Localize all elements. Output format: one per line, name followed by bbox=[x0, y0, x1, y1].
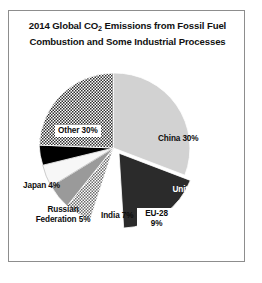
slice-label-russian-federation-line2: Federation 5% bbox=[36, 215, 91, 224]
slice-label-russian-federation: Russian Federation 5% bbox=[27, 205, 99, 224]
slice-label-china: China 30% bbox=[158, 134, 199, 144]
slice-label-india: India 7% bbox=[101, 211, 133, 221]
chart-title-line1-part1: 2014 Global CO bbox=[29, 20, 98, 31]
slice-label-eu28-value: 9% bbox=[151, 219, 163, 228]
chart-frame: 2014 Global CO2 Emissions from Fossil Fu… bbox=[8, 10, 245, 262]
pie-chart: China 30% United States 15% EU-28 9% Ind… bbox=[9, 45, 244, 261]
pie-svg bbox=[9, 45, 244, 261]
slice-label-united-states-value: 15% bbox=[190, 195, 206, 204]
chart-title: 2014 Global CO2 Emissions from Fossil Fu… bbox=[17, 19, 238, 48]
chart-title-line1-part2: Emissions from Fossil Fuel bbox=[102, 20, 226, 31]
slice-label-russian-federation-line1: Russian bbox=[47, 205, 78, 214]
slice-label-eu28-name: EU-28 bbox=[145, 209, 168, 218]
slice-label-other: Other 30% bbox=[55, 125, 101, 137]
slice-label-united-states-name: United States bbox=[172, 185, 223, 194]
slice-label-japan: Japan 4% bbox=[23, 181, 60, 191]
slice-label-eu28: EU-28 9% bbox=[137, 208, 176, 230]
slice-label-united-states: United States 15% bbox=[167, 185, 229, 204]
